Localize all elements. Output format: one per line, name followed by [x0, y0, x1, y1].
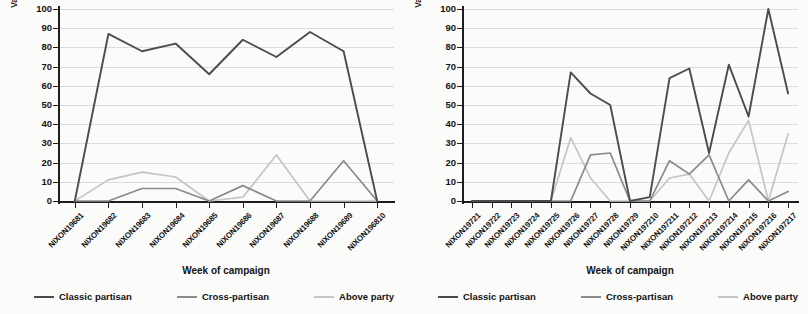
y-axis-tick-label: 0 [412, 195, 456, 206]
legend-swatch-icon [581, 296, 601, 298]
x-axis-tick [472, 203, 473, 208]
y-axis-tick-label: 20 [8, 157, 52, 168]
legend-swatch-icon [314, 296, 334, 298]
legend-right: Classic partisanCross-partisanAbove part… [438, 291, 798, 302]
x-axis-tick [75, 203, 76, 208]
legend-label: Classic partisan [463, 291, 536, 302]
y-axis-tick-label: 50 [412, 99, 456, 110]
x-axis-tick [689, 203, 690, 208]
legend-swatch-icon [718, 296, 738, 298]
x-axis-tick [209, 203, 210, 208]
figure-two-panel-line-charts: Variable use as a percentage of all use … [0, 0, 808, 314]
x-axis-tick [571, 203, 572, 208]
x-axis-tick [610, 203, 611, 208]
y-axis-tick-label: 90 [412, 22, 456, 33]
y-axis-tick-label: 30 [412, 137, 456, 148]
y-axis-tick-label: 50 [8, 99, 52, 110]
legend-swatch-icon [438, 296, 458, 298]
x-axis-title-right: Week of campaign [462, 265, 798, 276]
y-axis-tick-label: 10 [8, 176, 52, 187]
x-axis-tick [344, 203, 345, 208]
x-axis-tick [492, 203, 493, 208]
x-axis-tick-label: NIXON19683 [114, 211, 153, 250]
x-axis-tick [377, 203, 378, 208]
x-axis-tick [749, 203, 750, 208]
x-axis-tick [768, 203, 769, 208]
series-line-cross-partisan [472, 153, 788, 201]
y-axis-tick-label: 100 [8, 3, 52, 14]
x-axis-tick [108, 203, 109, 208]
legend-label: Classic partisan [59, 291, 132, 302]
legend-item: Classic partisan [438, 291, 536, 302]
x-axis-title-left: Week of campaign [58, 265, 394, 276]
plot-area-right: 0102030405060708090100 NIXON19721NIXON19… [462, 9, 798, 201]
y-axis-tick-label: 20 [412, 157, 456, 168]
chart-panel-right: Variable use as a percentage of all use … [404, 0, 808, 314]
y-axis-tick-label: 60 [8, 80, 52, 91]
series-lines-left [58, 9, 394, 203]
x-axis-tick [729, 203, 730, 208]
y-axis-tick-label: 70 [412, 61, 456, 72]
x-axis-tick [590, 203, 591, 208]
y-axis-tick-label: 70 [8, 61, 52, 72]
x-axis-tick [243, 203, 244, 208]
chart-panel-left: Variable use as a percentage of all use … [0, 0, 404, 314]
x-axis-tick [670, 203, 671, 208]
y-axis-tick-label: 80 [412, 41, 456, 52]
plot-area-left: 0102030405060708090100 NIXON19681NIXON19… [58, 9, 394, 201]
series-line-classic-partisan [472, 9, 788, 201]
legend-swatch-icon [34, 296, 54, 298]
y-axis-tick-label: 10 [412, 176, 456, 187]
legend-label: Above party [743, 291, 798, 302]
y-axis-tick-label: 90 [8, 22, 52, 33]
x-axis-tick [511, 203, 512, 208]
legend-item: Classic partisan [34, 291, 132, 302]
x-axis-tick [142, 203, 143, 208]
series-lines-right [462, 9, 798, 203]
y-axis-tick-label: 60 [412, 80, 456, 91]
legend-item: Above party [718, 291, 798, 302]
x-axis-tick [310, 203, 311, 208]
x-axis-tick [630, 203, 631, 208]
y-axis-tick-label: 40 [8, 118, 52, 129]
legend-left: Classic partisanCross-partisanAbove part… [34, 291, 394, 302]
x-axis-tick-label: NIXON19684 [147, 211, 186, 250]
legend-label: Above party [339, 291, 394, 302]
x-axis-tick-label: NIXON19688 [282, 211, 321, 250]
legend-label: Cross-partisan [606, 291, 673, 302]
x-axis-tick [531, 203, 532, 208]
y-axis-tick-label: 80 [8, 41, 52, 52]
legend-swatch-icon [177, 296, 197, 298]
legend-label: Cross-partisan [202, 291, 269, 302]
legend-item: Above party [314, 291, 394, 302]
y-axis-tick-label: 0 [8, 195, 52, 206]
y-axis-tick-label: 40 [412, 118, 456, 129]
legend-item: Cross-partisan [177, 291, 269, 302]
x-axis-tick [276, 203, 277, 208]
x-axis-tick [650, 203, 651, 208]
y-axis-tick-label: 30 [8, 137, 52, 148]
y-axis-tick-label: 100 [412, 3, 456, 14]
series-line-cross-partisan [75, 161, 377, 201]
x-axis-tick [176, 203, 177, 208]
legend-item: Cross-partisan [581, 291, 673, 302]
x-axis-tick [709, 203, 710, 208]
x-axis-tick [788, 203, 789, 208]
x-axis-tick [551, 203, 552, 208]
